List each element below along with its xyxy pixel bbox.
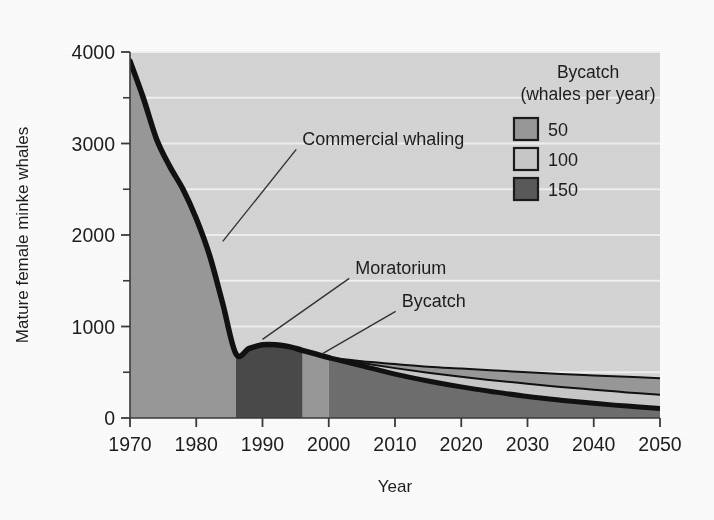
y-tick-label: 0 [104, 407, 115, 429]
y-tick-label: 2000 [72, 224, 116, 246]
y-axis-title: Mature female minke whales [13, 127, 32, 343]
x-axis-title: Year [378, 477, 413, 496]
x-tick-label: 1990 [241, 433, 285, 455]
x-tick-label: 2040 [572, 433, 616, 455]
x-tick-label: 2000 [307, 433, 351, 455]
whale-population-chart: 01000200030004000 1970198019902000201020… [0, 0, 714, 520]
annotation-label: Commercial whaling [302, 129, 464, 149]
legend-item-label: 150 [548, 180, 578, 200]
y-tick-label: 1000 [72, 316, 116, 338]
legend-title-line2: (whales per year) [520, 84, 655, 104]
x-tick-label: 2050 [638, 433, 682, 455]
legend-item-label: 100 [548, 150, 578, 170]
x-tick-label: 2020 [440, 433, 484, 455]
chart-figure: 01000200030004000 1970198019902000201020… [0, 0, 714, 520]
x-tick-label: 1970 [108, 433, 152, 455]
annotation-label: Moratorium [355, 258, 446, 278]
x-tick-label: 2010 [373, 433, 417, 455]
legend-title-line1: Bycatch [557, 62, 619, 82]
y-tick-label: 4000 [72, 41, 116, 63]
annotation-label: Bycatch [402, 291, 466, 311]
x-axis-tick-labels: 197019801990200020102020203020402050 [108, 433, 682, 455]
x-tick-label: 1980 [175, 433, 219, 455]
legend-item-label: 50 [548, 120, 568, 140]
y-tick-label: 3000 [72, 133, 116, 155]
x-tick-label: 2030 [506, 433, 550, 455]
